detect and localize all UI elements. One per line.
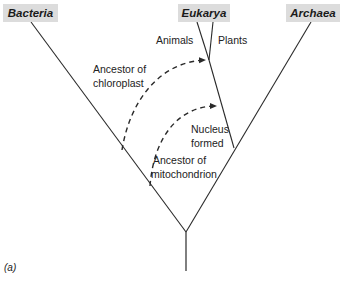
- animals-label: Animals: [156, 34, 193, 47]
- archaea-label: Archaea: [286, 4, 340, 22]
- nucleus-line2: formed: [191, 137, 224, 150]
- mitochondrion-line2: mitochondrion: [151, 168, 217, 181]
- plants-label: Plants: [218, 34, 247, 47]
- eukarya-label: Eukarya: [178, 4, 230, 22]
- figure-caption: (a): [4, 262, 16, 273]
- plants-branch: [209, 22, 213, 60]
- mitochondrion-line1: Ancestor of: [153, 154, 206, 167]
- nucleus-line1: Nucleus: [191, 123, 229, 136]
- bacteria-branch: [31, 22, 186, 232]
- chloroplast-line1: Ancestor of: [93, 63, 146, 76]
- animals-branch: [197, 22, 209, 60]
- chloroplast-line2: chloroplast: [93, 77, 144, 90]
- bacteria-label: Bacteria: [3, 4, 58, 22]
